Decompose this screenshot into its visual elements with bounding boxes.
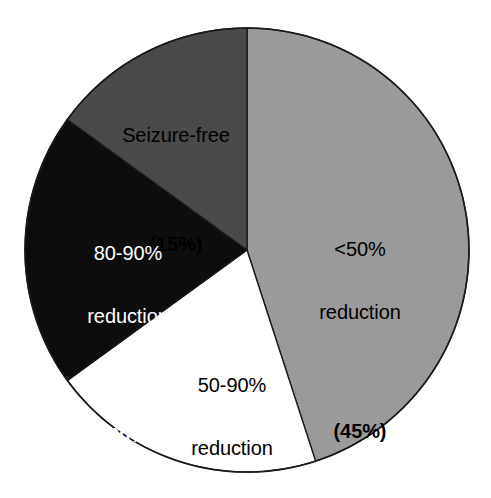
pie-chart-canvas <box>0 0 491 498</box>
pie-chart: Seizure-free (15%) <50% reduction (45%) … <box>0 0 491 498</box>
